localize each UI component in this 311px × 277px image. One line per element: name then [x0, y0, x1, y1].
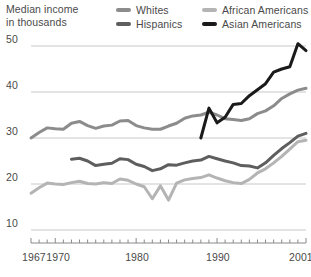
plot-area — [0, 0, 311, 277]
x-axis-label-1990: 1990 — [206, 252, 230, 263]
y-axis-label-30: 30 — [6, 126, 18, 137]
plot-svg — [0, 0, 311, 277]
y-axis-label-40: 40 — [6, 80, 18, 91]
chart-root: Median income in thousands Whites Hispan… — [0, 0, 311, 277]
series-line-african-americans — [31, 140, 306, 200]
series-line-asian-americans — [201, 44, 306, 138]
x-axis-label-1980: 1980 — [125, 252, 149, 263]
y-axis-label-20: 20 — [6, 172, 18, 183]
x-axis-label-1970: 1970 — [46, 252, 70, 263]
series-line-whites — [31, 88, 306, 138]
y-axis-label-10: 10 — [6, 218, 18, 229]
y-axis-label-50: 50 — [6, 34, 18, 45]
x-axis-label-2001: 2001 — [289, 252, 311, 263]
x-axis-label-1967: 1967 — [22, 252, 46, 263]
